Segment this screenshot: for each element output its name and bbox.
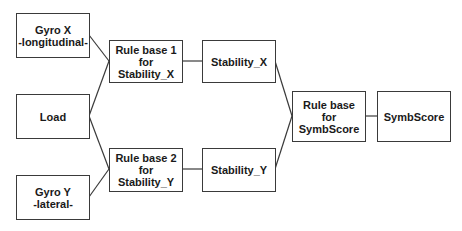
node-rule-base-2: Rule base 2 for Stability_Y bbox=[109, 148, 183, 192]
node-load: Load bbox=[16, 94, 90, 139]
node-label: Stability_Y bbox=[211, 164, 267, 176]
node-gyro-x: Gyro X -longitudinal- bbox=[16, 13, 90, 58]
node-label: Stability_X bbox=[211, 56, 267, 68]
node-label: Rule base bbox=[303, 99, 355, 111]
node-rule-base-symbscore: Rule base for SymbScore bbox=[292, 91, 366, 142]
node-label: Rule base 1 bbox=[115, 44, 176, 56]
node-label: for bbox=[139, 164, 154, 176]
node-label: -lateral- bbox=[33, 198, 73, 210]
node-stability-x: Stability_X bbox=[202, 40, 276, 83]
node-label: Stability_X bbox=[118, 68, 174, 80]
node-gyro-y: Gyro Y -lateral- bbox=[16, 175, 90, 220]
node-label: Stability_Y bbox=[118, 176, 174, 188]
node-label: -longitudinal- bbox=[18, 36, 88, 48]
node-label: Gyro Y bbox=[35, 186, 71, 198]
edge-gyrox-rb1 bbox=[89, 35, 109, 61]
node-label: SymbScore bbox=[299, 123, 360, 135]
node-stability-y: Stability_Y bbox=[202, 148, 276, 192]
node-label: Load bbox=[40, 111, 66, 123]
node-symbscore: SymbScore bbox=[377, 91, 451, 142]
node-rule-base-1: Rule base 1 for Stability_X bbox=[109, 40, 183, 83]
edge-stabx-rbs bbox=[275, 61, 292, 116]
edge-staby-rbs bbox=[275, 116, 292, 169]
node-label: for bbox=[139, 56, 154, 68]
node-label: Gyro X bbox=[35, 24, 71, 36]
node-label: SymbScore bbox=[384, 111, 445, 123]
node-label: for bbox=[322, 111, 337, 123]
node-label: Rule base 2 bbox=[115, 152, 176, 164]
edge-load-rb2 bbox=[89, 116, 109, 169]
edge-load-rb1 bbox=[89, 61, 109, 116]
edge-gyroy-rb2 bbox=[89, 169, 109, 197]
